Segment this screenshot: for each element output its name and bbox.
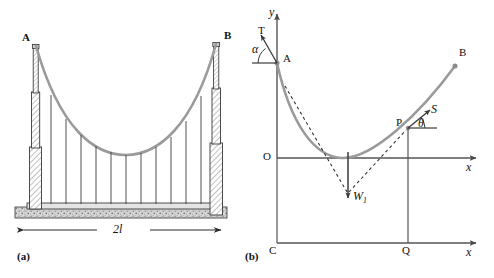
caption-panel-b: (b) <box>245 250 258 262</box>
panel-b-free-body-diagram <box>252 14 476 243</box>
label-weight-symbol: W <box>353 189 363 203</box>
label-point-a-bridge: A <box>22 32 30 43</box>
label-point-p: P <box>396 117 402 128</box>
panel-a-bridge-elevation <box>15 43 227 231</box>
label-point-b-fbd: B <box>459 47 466 58</box>
label-point-c: C <box>269 245 276 256</box>
label-x-axis-lower: x <box>466 246 471 258</box>
label-weight-w1: W1 <box>353 190 367 205</box>
label-tension-s: S <box>431 103 437 115</box>
label-x-axis-upper: x <box>466 161 471 173</box>
caption-panel-a: (a) <box>17 250 30 262</box>
bridge-deck <box>27 203 217 209</box>
label-angle-theta: θ <box>418 117 424 129</box>
label-y-axis: y <box>269 6 274 18</box>
label-tension-t: T <box>258 25 265 36</box>
hanger-group <box>51 95 201 204</box>
point-b-marker <box>453 64 458 69</box>
main-cable <box>36 44 216 155</box>
label-point-q: Q <box>402 245 410 256</box>
dashed-line-a-to-w <box>285 86 347 192</box>
label-span-dimension: 2l <box>113 223 122 235</box>
alpha-angle-arc <box>258 49 266 64</box>
dashed-line-w-to-p <box>349 130 406 192</box>
label-origin-o: O <box>263 151 271 162</box>
figure-suspension-bridge-and-free-body-diagram <box>0 0 494 278</box>
label-weight-subscript: 1 <box>363 196 367 205</box>
label-point-a-fbd: A <box>283 53 291 64</box>
label-point-b-bridge: B <box>224 30 231 41</box>
right-tower <box>210 43 223 216</box>
left-tower <box>30 45 42 210</box>
cable-curve <box>277 63 455 158</box>
label-angle-alpha: α <box>252 43 258 55</box>
